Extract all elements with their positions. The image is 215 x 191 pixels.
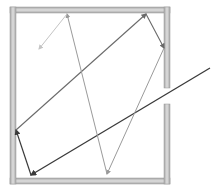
light-trap-diagram <box>0 0 215 191</box>
light-ray-path <box>16 14 210 175</box>
reflected-ray-6 <box>39 14 67 49</box>
right-wall-upper <box>164 7 170 88</box>
bottom-wall <box>10 178 170 184</box>
reflected-ray-1 <box>16 130 31 175</box>
reflected-ray-4 <box>107 48 164 174</box>
incident-ray <box>31 68 210 175</box>
diagram-canvas <box>0 0 215 191</box>
top-wall <box>10 7 170 13</box>
reflected-ray-3 <box>146 14 164 48</box>
left-wall <box>10 7 16 184</box>
right-wall-lower <box>164 104 170 184</box>
enclosure-walls <box>10 7 170 184</box>
